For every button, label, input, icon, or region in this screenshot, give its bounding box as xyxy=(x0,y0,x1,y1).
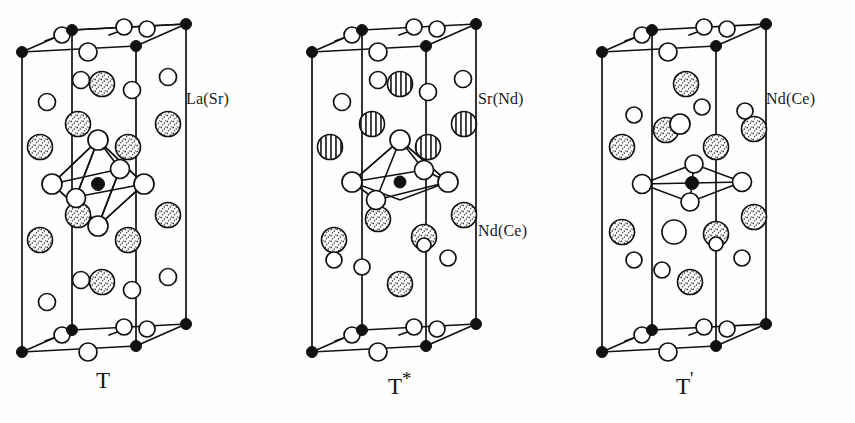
atom-oxygen xyxy=(696,319,712,335)
caption-T-text: T xyxy=(96,368,110,393)
atom-cu xyxy=(67,25,78,36)
atom-nd-ce xyxy=(678,270,703,295)
atom-oxygen xyxy=(367,191,386,210)
atom-cu xyxy=(647,25,658,36)
atom-oxygen xyxy=(659,343,677,361)
atom-oxygen xyxy=(626,107,642,123)
atom-oxygen xyxy=(79,43,97,61)
atom-oxygen xyxy=(67,189,86,208)
atom-la-sr xyxy=(156,203,181,228)
atom-oxygen xyxy=(440,250,456,266)
atom-cu xyxy=(471,319,482,330)
atom-cu-center xyxy=(686,177,699,190)
atom-cu xyxy=(421,341,432,352)
atom-cu xyxy=(647,325,658,336)
atom-oxygen xyxy=(124,82,141,99)
atom-oxygen xyxy=(369,43,387,61)
atom-oxygen xyxy=(342,172,362,192)
atom-oxygen xyxy=(139,21,155,37)
atom-oxygen xyxy=(429,21,445,37)
atom-oxygen xyxy=(719,321,735,337)
atom-la-sr xyxy=(28,135,53,160)
atom-oxygen xyxy=(694,99,710,115)
atom-la-sr xyxy=(156,112,181,137)
atom-nd-ce xyxy=(742,205,767,230)
atom-la-sr xyxy=(90,270,115,295)
atom-oxygen xyxy=(733,173,752,192)
atom-oxygen xyxy=(79,343,97,361)
caption-T-star: T* xyxy=(388,368,412,400)
caption-T-star-text: T xyxy=(388,374,402,399)
atom-oxygen xyxy=(429,321,445,337)
atom-oxygen xyxy=(455,71,472,88)
unit-cell-T-star xyxy=(300,12,560,392)
atom-la-sr xyxy=(28,228,53,253)
atom-oxygen xyxy=(659,43,677,61)
crystal-structure-figure: La(Sr) Sr(Nd) Nd(Ce) Nd(Ce) T T* T' xyxy=(0,0,855,423)
atom-oxygen xyxy=(390,130,410,150)
caption-T-prime-superscript: ' xyxy=(690,368,693,389)
atom-oxygen xyxy=(719,21,735,37)
atom-cu xyxy=(471,19,482,30)
atom-oxygen xyxy=(116,19,132,35)
atom-cu xyxy=(597,47,608,58)
atom-sr-nd xyxy=(388,72,413,97)
atom-cu xyxy=(761,19,772,30)
atom-cu xyxy=(597,347,608,358)
atom-la-sr xyxy=(66,112,91,137)
atom-nd-ce xyxy=(388,272,413,297)
atom-nd-ce xyxy=(610,220,635,245)
atom-oxygen xyxy=(42,174,62,194)
atom-la-sr xyxy=(90,72,115,97)
atom-oxygen xyxy=(438,172,458,192)
atom-nd-ce xyxy=(452,203,477,228)
atom-la-sr xyxy=(116,228,141,253)
atom-cu xyxy=(307,47,318,58)
atom-cu xyxy=(131,341,142,352)
caption-T-prime-text: T xyxy=(676,374,690,399)
atom-oxygen xyxy=(160,269,177,286)
atom-cu xyxy=(181,319,192,330)
atom-oxygen xyxy=(73,72,90,89)
atom-oxygen xyxy=(139,321,155,337)
atom-oxygen xyxy=(633,175,652,194)
atom-oxygen xyxy=(417,238,431,252)
unit-cell-T xyxy=(10,12,270,392)
atom-nd-ce xyxy=(704,135,729,160)
atom-oxygen xyxy=(406,319,422,335)
atom-oxygen xyxy=(406,19,422,35)
atom-oxygen xyxy=(39,294,56,311)
unit-cell-T-prime xyxy=(590,12,850,392)
atom-nd-ce xyxy=(742,117,767,142)
atom-oxygen xyxy=(670,114,690,134)
atom-cu xyxy=(181,19,192,30)
atom-oxygen xyxy=(354,259,370,275)
atom-sr-nd xyxy=(318,135,343,160)
atom-oxygen xyxy=(116,319,132,335)
atom-oxygen xyxy=(662,220,686,244)
atom-sr-nd xyxy=(416,135,441,160)
atom-oxygen xyxy=(73,272,90,289)
atom-oxygen xyxy=(369,343,387,361)
atom-cu xyxy=(711,41,722,52)
atom-oxygen xyxy=(709,237,723,251)
atom-oxygen xyxy=(737,103,753,119)
atom-cu xyxy=(711,341,722,352)
label-sr-nd: Sr(Nd) xyxy=(478,90,524,108)
label-nd-ce-right: Nd(Ce) xyxy=(766,90,815,108)
atom-oxygen xyxy=(111,160,130,179)
atom-la-sr xyxy=(116,135,141,160)
atom-oxygen xyxy=(626,252,642,268)
atom-oxygen xyxy=(681,193,699,211)
atom-sr-nd xyxy=(360,112,385,137)
atom-oxygen xyxy=(696,19,712,35)
caption-T: T xyxy=(96,368,110,394)
atom-cu-center xyxy=(92,178,105,191)
atom-oxygen xyxy=(415,161,434,180)
atom-oxygen xyxy=(39,94,56,111)
atom-nd-ce xyxy=(322,228,347,253)
atom-oxygen xyxy=(420,84,437,101)
label-nd-ce-middle: Nd(Ce) xyxy=(478,222,527,240)
atom-oxygen xyxy=(160,69,177,86)
atom-cu xyxy=(761,319,772,330)
